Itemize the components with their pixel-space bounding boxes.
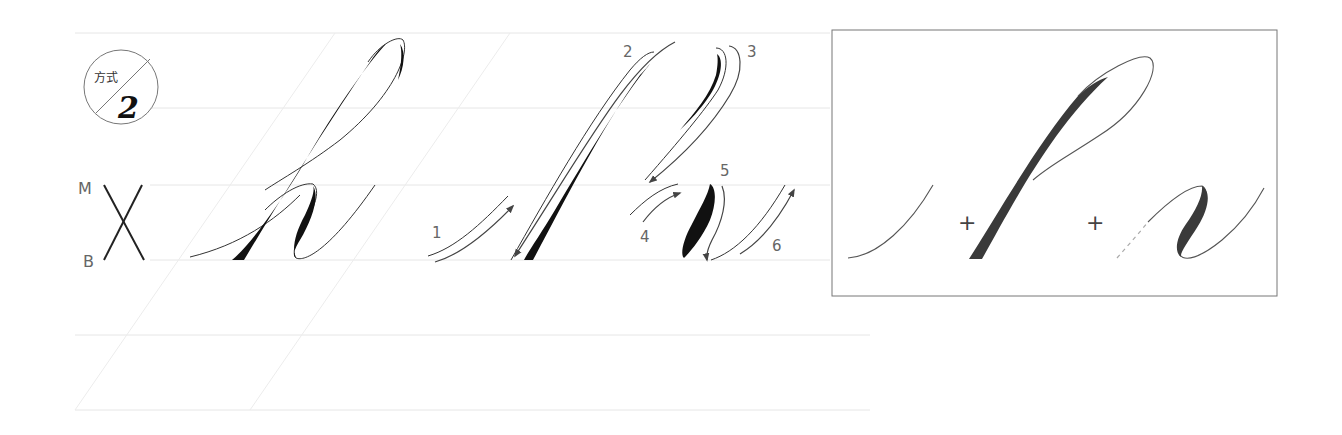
method-number: 2: [117, 90, 139, 125]
step-6-label: 6: [772, 237, 782, 255]
horizontal-guides: [75, 33, 870, 410]
plus-operator-2: +: [1086, 210, 1104, 235]
step-2-label: 2: [623, 43, 633, 61]
method-badge: 方式 2: [84, 50, 158, 125]
step-3-label: 3: [747, 43, 757, 61]
baseline-label: B: [83, 252, 94, 271]
slant-guides: [75, 33, 510, 410]
stroke-order-h: 1 2 3 4 5 6: [428, 42, 794, 262]
method-label: 方式: [94, 70, 118, 85]
composition-box: + +: [832, 30, 1277, 296]
calligraphy-diagram: 方式 2 M B 1 2 3 4: [0, 0, 1342, 435]
step-5-label: 5: [720, 162, 730, 180]
step-4-label: 4: [640, 228, 650, 246]
slant-indicator: M B: [78, 179, 144, 271]
letter-h-complete: [190, 39, 405, 260]
midline-label: M: [78, 179, 92, 198]
step-1-label: 1: [432, 224, 442, 242]
plus-operator-1: +: [958, 210, 976, 235]
